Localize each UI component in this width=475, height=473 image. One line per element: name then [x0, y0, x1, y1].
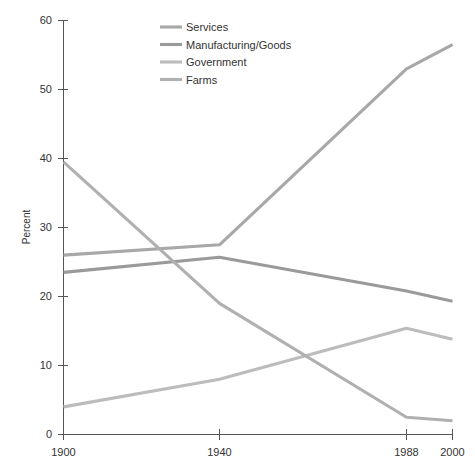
y-axis-title: Percent — [21, 210, 32, 245]
legend-label-services: Services — [186, 21, 229, 33]
y-axis-tick-labels: 0 10 20 30 40 50 60 — [40, 14, 52, 440]
series-line-farms — [64, 162, 453, 421]
line-chart: 0 10 20 30 40 50 60 Percent 1900 1940 19… — [0, 0, 475, 473]
series-line-government — [64, 328, 453, 407]
chart-svg: 0 10 20 30 40 50 60 Percent 1900 1940 19… — [0, 0, 475, 473]
y-tick-label-30: 30 — [40, 221, 52, 233]
y-tick-label-20: 20 — [40, 290, 52, 302]
chart-legend: ServicesManufacturing/GoodsGovernmentFar… — [160, 21, 292, 86]
x-tick-label-1988: 1988 — [394, 446, 418, 458]
legend-label-manufacturing-goods: Manufacturing/Goods — [186, 39, 292, 51]
y-tick-label-50: 50 — [40, 83, 52, 95]
x-tick-label-1940: 1940 — [207, 446, 231, 458]
y-tick-label-60: 60 — [40, 14, 52, 26]
series-lines — [64, 45, 453, 421]
y-tick-label-0: 0 — [46, 428, 52, 440]
y-tick-label-40: 40 — [40, 152, 52, 164]
legend-label-government: Government — [186, 56, 247, 68]
x-axis-tick-labels: 1900 1940 1988 2000 — [51, 446, 464, 458]
series-line-services — [64, 45, 453, 255]
x-tick-label-2000: 2000 — [440, 446, 464, 458]
legend-label-farms: Farms — [186, 74, 218, 86]
series-line-manufacturing-goods — [64, 257, 453, 301]
x-tick-label-1900: 1900 — [51, 446, 75, 458]
y-tick-label-10: 10 — [40, 359, 52, 371]
